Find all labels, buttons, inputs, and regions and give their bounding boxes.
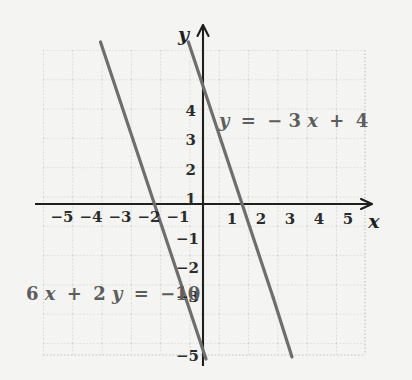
- x-tick-minus-4: −4: [79, 208, 102, 226]
- x-tick-minus-3: −3: [108, 208, 131, 226]
- x-tick-minus-2: −2: [137, 208, 160, 226]
- x-tick-minus-5: −5: [50, 208, 73, 226]
- eq2-var1: x: [44, 283, 56, 304]
- eq1-lhs: y: [218, 110, 231, 131]
- eq2-plus: +: [67, 283, 82, 304]
- eq1-plus: +: [329, 110, 344, 131]
- graph-figure: −5 −4 −3 −2 −1 1 2 3 4 5 4 3 2 1 −1 −2 −…: [0, 0, 412, 380]
- equation-label-line2: 6 x + 2 y = −10: [26, 283, 200, 304]
- eq1-sign: −: [267, 110, 282, 131]
- x-tick-5: 5: [343, 210, 353, 228]
- y-tick-4: 4: [186, 102, 196, 120]
- x-tick-2: 2: [256, 210, 266, 228]
- x-axis-tick-labels-negative: −5 −4 −3 −2 −1: [50, 208, 189, 226]
- equation-label-line1: y = − 3 x + 4: [218, 110, 368, 131]
- eq2-rhs: −10: [160, 283, 200, 304]
- coordinate-plane-svg: −5 −4 −3 −2 −1 1 2 3 4 5 4 3 2 1 −1 −2 −…: [0, 0, 412, 380]
- eq1-variable: x: [306, 110, 318, 131]
- y-tick-3: 3: [186, 131, 196, 149]
- eq2-equals: =: [134, 283, 149, 304]
- eq2-var2: y: [111, 283, 124, 304]
- x-axis-label: x: [367, 210, 380, 232]
- eq1-constant: 4: [356, 110, 369, 131]
- y-axis-label: y: [177, 23, 191, 45]
- eq2-coef2: 2: [93, 283, 106, 304]
- y-tick-minus-1: −1: [176, 230, 199, 248]
- y-tick-2: 2: [186, 161, 196, 179]
- eq1-equals: =: [241, 110, 256, 131]
- y-tick-minus-2: −2: [176, 259, 199, 277]
- x-tick-minus-1: −1: [166, 208, 189, 226]
- eq1-coefficient: 3: [289, 110, 302, 131]
- y-tick-1: 1: [186, 190, 196, 208]
- eq2-coef1: 6: [26, 283, 39, 304]
- x-tick-3: 3: [285, 210, 295, 228]
- x-tick-4: 4: [314, 210, 324, 228]
- y-tick-minus-5: −5: [176, 347, 199, 365]
- x-tick-1: 1: [227, 210, 237, 228]
